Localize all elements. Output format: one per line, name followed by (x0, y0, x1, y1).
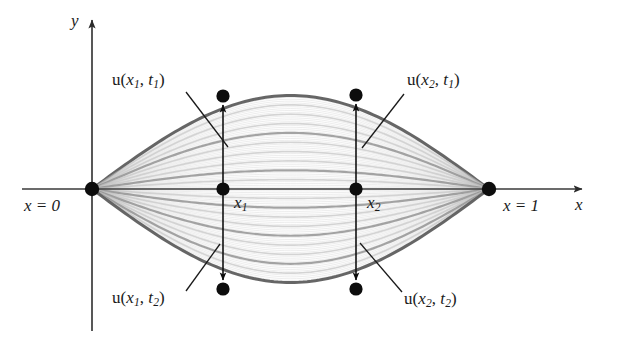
x1-tick-sub: 1 (242, 201, 248, 214)
u-x2-t2-var: x (418, 289, 426, 308)
axes-group (22, 20, 582, 331)
u-x1-t2-open: u( (112, 288, 126, 307)
dot-origin (85, 182, 99, 196)
x1-tick-label: x1 (234, 194, 248, 214)
dot-x1-on-axis (216, 182, 229, 195)
u-x1-t1-close: ) (159, 70, 165, 89)
u-x1-t2-sep: , (140, 288, 149, 307)
label-u-x1-t1: u(x1, t1) (112, 71, 165, 91)
dot-x2-on-axis (349, 182, 362, 195)
label-u-x2-t2: u(x2, t2) (404, 290, 457, 310)
u-x2-t1-sep: , (435, 70, 444, 89)
dot-u-x2-t2 (349, 282, 362, 295)
dot-u-x1-t2 (216, 282, 229, 295)
wave-solution-figure: y x x = 0 x = 1 x1 x2 u(x1, t1) u(x2, t1… (0, 0, 619, 341)
u-x2-t1-open: u( (407, 70, 421, 89)
dot-right-endpoint (482, 182, 496, 196)
u-x1-t2-close: ) (159, 288, 165, 307)
u-x2-t1-var: x (421, 70, 429, 89)
u-x1-t1-sep: , (140, 70, 149, 89)
u-x1-t1-var: x (126, 70, 134, 89)
x1-tick-var: x (234, 193, 242, 212)
x2-tick-var: x (367, 193, 375, 212)
u-x2-t2-sep: , (432, 289, 441, 308)
y-axis-label: y (71, 12, 79, 29)
right-endpoint-label: x = 1 (503, 197, 539, 214)
label-u-x1-t2: u(x1, t2) (112, 289, 165, 309)
figure-canvas (0, 0, 619, 341)
dot-u-x1-t1 (216, 89, 229, 102)
u-x2-t1-close: ) (454, 70, 460, 89)
label-u-x2-t1: u(x2, t1) (407, 71, 460, 91)
dot-u-x2-t1 (349, 88, 362, 101)
u-x2-t2-close: ) (451, 289, 457, 308)
u-x1-t2-var: x (126, 288, 134, 307)
origin-endpoint-label: x = 0 (24, 197, 60, 214)
u-x2-t2-open: u( (404, 289, 418, 308)
x2-tick-sub: 2 (375, 201, 381, 214)
x2-tick-label: x2 (367, 194, 381, 214)
u-x1-t1-open: u( (112, 70, 126, 89)
x-axis-label: x (575, 196, 583, 213)
